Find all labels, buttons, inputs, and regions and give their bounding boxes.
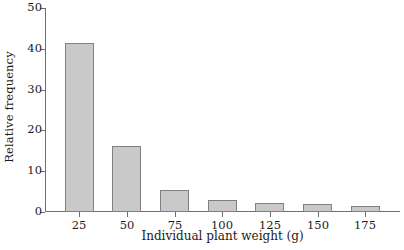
y-tick-label: 0 <box>35 205 42 218</box>
x-tick-mark <box>127 212 128 217</box>
x-tick-mark <box>270 212 271 217</box>
y-tick-label: 30 <box>27 83 42 96</box>
y-tick-label: 50 <box>27 1 42 14</box>
x-tick-mark <box>365 212 366 217</box>
bar <box>351 206 380 212</box>
bar <box>208 200 237 212</box>
y-axis-title: Relative frequency <box>0 0 18 214</box>
x-axis-title: Individual plant weight (g) <box>45 229 400 244</box>
chart-figure: Relative frequency 01020304050 255075100… <box>0 0 404 250</box>
y-tick-label: 40 <box>27 42 42 55</box>
y-axis-line <box>45 8 46 212</box>
bar <box>160 190 189 212</box>
x-tick-mark <box>175 212 176 217</box>
y-tick-label: 20 <box>27 123 42 136</box>
bar <box>112 146 141 212</box>
bar <box>303 204 332 212</box>
y-axis-title-text: Relative frequency <box>2 51 16 163</box>
x-tick-mark <box>222 212 223 217</box>
y-tick-label: 10 <box>27 164 42 177</box>
bar <box>255 203 284 212</box>
bar <box>65 43 94 212</box>
x-tick-mark <box>318 212 319 217</box>
plot-area: 01020304050 255075100125150175 <box>45 8 400 212</box>
x-tick-mark <box>79 212 80 217</box>
